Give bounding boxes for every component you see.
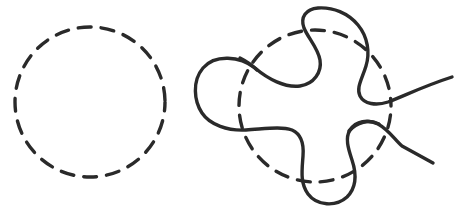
figure-background [0, 0, 462, 217]
figure-canvas [0, 0, 462, 217]
